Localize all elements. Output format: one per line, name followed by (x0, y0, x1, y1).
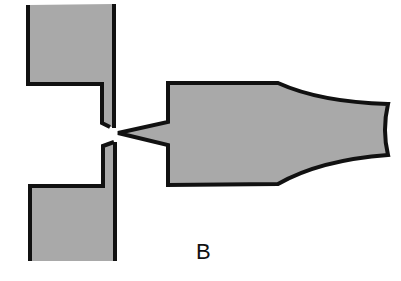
figure-label: B (196, 241, 211, 263)
tip-body (118, 83, 388, 185)
